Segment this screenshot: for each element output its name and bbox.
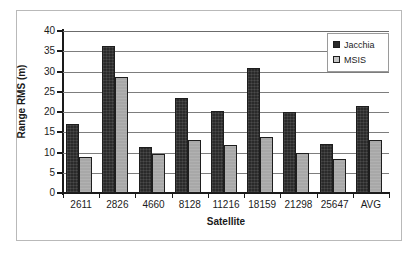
bar-group	[139, 31, 165, 193]
bar-jacchia-4660	[139, 147, 152, 193]
y-axis-tick-label: 15	[33, 127, 55, 137]
bar-jacchia-2611	[66, 124, 79, 193]
x-axis-category-label: 18159	[244, 199, 280, 210]
bar-jacchia-21298	[283, 112, 296, 193]
bar-jacchia-25647	[320, 144, 333, 193]
y-axis-tick-label: 10	[33, 148, 55, 158]
legend-swatch-icon	[333, 56, 340, 63]
x-axis-tick	[317, 193, 318, 198]
legend-label: MSIS	[344, 55, 366, 65]
y-axis-tick-label: 40	[33, 26, 55, 36]
bar-msis-18159	[260, 137, 273, 193]
bar-msis-8128	[188, 140, 201, 193]
bar-group	[247, 31, 273, 193]
x-axis-tick	[353, 193, 354, 198]
y-axis-tick	[57, 30, 63, 32]
bar-jacchia-AVG	[356, 106, 369, 193]
x-axis-category-label: 2826	[99, 199, 135, 210]
x-axis-tick	[63, 193, 64, 198]
x-axis-tick	[208, 193, 209, 198]
x-axis-category-label: 25647	[317, 199, 353, 210]
y-axis-tick-label: 30	[33, 67, 55, 77]
y-axis-tick	[57, 131, 63, 133]
y-axis-tick-label: 20	[33, 107, 55, 117]
y-axis-tick	[57, 111, 63, 113]
y-axis-tick	[57, 172, 63, 174]
bar-msis-25647	[333, 159, 346, 193]
y-axis-tick	[57, 50, 63, 52]
y-axis-title: Range RMS (m)	[16, 42, 27, 162]
x-axis-tick	[280, 193, 281, 198]
bar-msis-AVG	[369, 140, 382, 193]
bar-jacchia-2826	[102, 46, 115, 193]
chart-legend: JacchiaMSIS	[327, 33, 389, 72]
legend-entry-jacchia: Jacchia	[333, 38, 384, 51]
legend-entry-msis: MSIS	[333, 53, 384, 66]
y-axis-tick-labels: 0510152025303540	[30, 0, 55, 254]
x-axis-category-label: 11216	[208, 199, 244, 210]
bar-group	[102, 31, 128, 193]
x-axis-category-label: AVG	[353, 199, 389, 210]
bar-jacchia-11216	[211, 111, 224, 193]
legend-swatch-icon	[333, 41, 340, 48]
x-axis-title: Satellite	[63, 216, 389, 227]
x-axis-category-label: 4660	[135, 199, 171, 210]
bar-msis-21298	[296, 153, 309, 194]
y-axis-tick	[57, 91, 63, 93]
legend-label: Jacchia	[344, 40, 375, 50]
bar-group	[175, 31, 201, 193]
bar-group	[66, 31, 92, 193]
y-axis-tick-label: 5	[33, 168, 55, 178]
y-axis-tick	[57, 152, 63, 154]
bar-msis-2826	[115, 77, 128, 193]
bar-jacchia-8128	[175, 98, 188, 193]
y-axis-tick-label: 25	[33, 87, 55, 97]
bar-msis-2611	[79, 157, 92, 193]
y-axis-tick	[57, 71, 63, 73]
x-axis-tick	[172, 193, 173, 198]
x-axis-tick	[244, 193, 245, 198]
x-axis-tick	[135, 193, 136, 198]
bar-msis-11216	[224, 145, 237, 193]
bar-msis-4660	[152, 154, 165, 193]
x-axis-tick	[99, 193, 100, 198]
bar-group	[211, 31, 237, 193]
x-axis-tick	[389, 193, 390, 198]
x-axis-category-label: 21298	[280, 199, 316, 210]
y-axis-tick-label: 35	[33, 46, 55, 56]
y-axis-tick-label: 0	[33, 188, 55, 198]
x-axis-category-label: 2611	[63, 199, 99, 210]
x-axis-category-label: 8128	[172, 199, 208, 210]
bar-group	[283, 31, 309, 193]
bar-chart-figure: 0510152025303540 Range RMS (m) Satellite…	[0, 0, 418, 254]
bar-jacchia-18159	[247, 68, 260, 193]
